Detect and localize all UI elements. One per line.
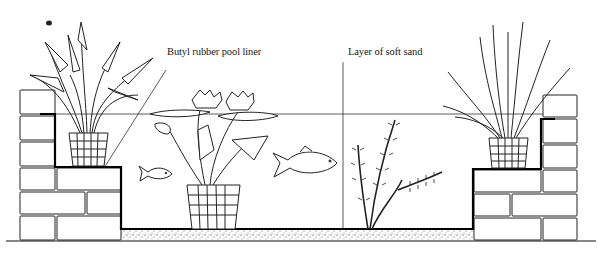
label-pool-liner: Butyl rubber pool liner (167, 46, 261, 57)
insect (46, 21, 52, 26)
goldfish (273, 146, 337, 177)
oxygenating-weed (351, 120, 442, 229)
right-plant-basket (489, 138, 528, 168)
liner-leader-line (104, 70, 166, 168)
pond-illustration (0, 0, 598, 258)
label-soft-sand: Layer of soft sand (348, 46, 422, 57)
pond-diagram: Butyl rubber pool liner Layer of soft sa… (0, 0, 598, 258)
small-fish (139, 166, 172, 181)
sand-layer (121, 229, 473, 240)
left-plant-basket (69, 133, 108, 166)
water-lily (150, 90, 278, 229)
